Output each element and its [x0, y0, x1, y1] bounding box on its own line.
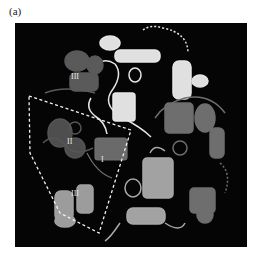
ribbon-structure-graphic	[15, 23, 247, 247]
protein-ribbon-figure: III II I III	[15, 23, 247, 247]
panel-label: (a)	[9, 5, 21, 17]
domain-label-II: II	[67, 137, 72, 146]
domain-label-III-bottom: III	[71, 189, 79, 198]
subunit-light-gray-center	[105, 147, 185, 241]
domain-label-I: I	[101, 155, 104, 164]
domain-label-III-top: III	[71, 72, 79, 81]
subunit-domain-I	[87, 138, 127, 178]
